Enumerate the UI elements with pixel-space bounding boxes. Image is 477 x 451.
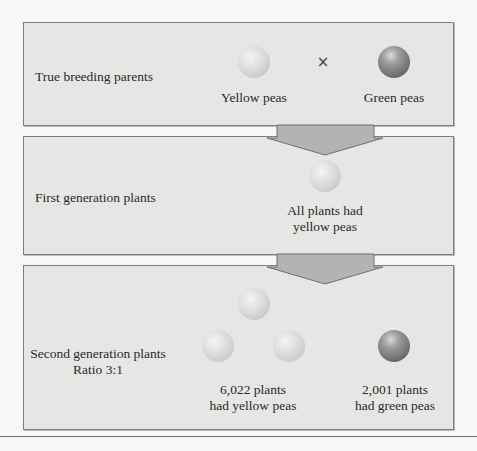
yellow-pea-icon — [273, 330, 305, 362]
green-pea-icon — [378, 46, 410, 78]
yellow-count-caption-line1: 6,022 plants — [220, 382, 286, 398]
parents-label: True breeding parents — [35, 69, 153, 85]
yellow-peas-caption: Yellow peas — [221, 90, 287, 106]
green-peas-caption: Green peas — [364, 90, 424, 106]
yellow-pea-icon — [309, 160, 341, 192]
cross-symbol: × — [317, 55, 330, 70]
green-count-caption-line1: 2,001 plants — [362, 382, 428, 398]
second-generation-label: Second generation plants — [30, 346, 166, 362]
first-generation-caption-line1: All plants had — [287, 203, 363, 219]
bottom-divider — [0, 436, 477, 437]
yellow-count-caption-line2: had yellow peas — [210, 398, 297, 414]
first-generation-caption-line2: yellow peas — [293, 219, 357, 235]
yellow-pea-icon — [238, 288, 270, 320]
green-count-caption-line2: had green peas — [355, 398, 435, 414]
ratio-label: Ratio 3:1 — [73, 362, 123, 378]
yellow-pea-icon — [202, 330, 234, 362]
green-pea-icon — [378, 330, 410, 362]
yellow-pea-icon — [238, 46, 270, 78]
first-generation-label: First generation plants — [35, 190, 156, 206]
